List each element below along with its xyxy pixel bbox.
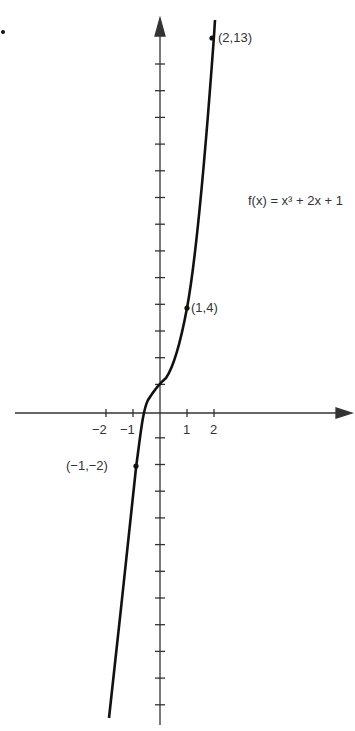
- point-label: (1,4): [191, 300, 218, 315]
- graph: [0, 0, 355, 731]
- x-axis-arrow-icon: [336, 408, 352, 418]
- x-tick-label: 2: [210, 422, 217, 437]
- x-tick-label: 1: [183, 422, 190, 437]
- point-label: (2,13): [218, 30, 252, 45]
- function-curve: [109, 20, 215, 718]
- point-label: (−1,−2): [66, 458, 108, 473]
- y-axis-arrow-icon: [155, 18, 165, 36]
- x-tick-label: −2: [92, 422, 107, 437]
- x-tick-label: −1: [120, 422, 135, 437]
- function-label: f(x) = x³ + 2x + 1: [248, 193, 343, 208]
